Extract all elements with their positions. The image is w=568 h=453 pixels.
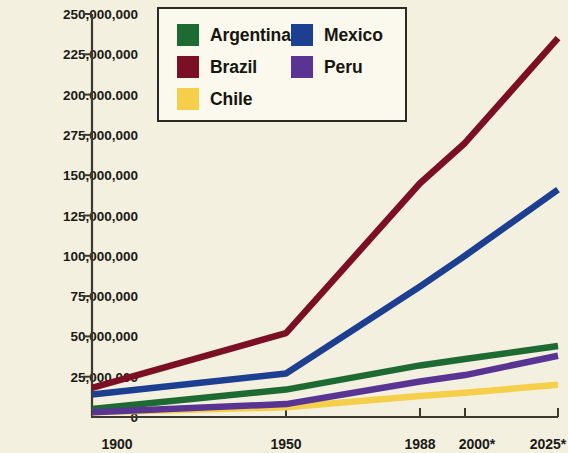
- legend-swatch-chile: [177, 88, 199, 110]
- legend: ArgentinaMexicoBrazilPeruChile: [157, 7, 407, 122]
- population-growth-line-chart: 250,000,000225,000,000200.000.000275,000…: [0, 0, 568, 453]
- x-axis-tick-label: 1900: [101, 436, 132, 452]
- legend-swatch-brazil: [177, 56, 199, 78]
- legend-entry-argentina: Argentina: [177, 24, 291, 46]
- legend-swatch-mexico: [291, 24, 313, 46]
- legend-grid: ArgentinaMexicoBrazilPeruChile: [159, 9, 405, 120]
- legend-row: Chile: [177, 83, 405, 115]
- x-axis-tick-label: 2000*: [459, 436, 496, 452]
- x-axis-tick-labels: 1900195019882000*2025*: [101, 436, 566, 452]
- legend-swatch-argentina: [177, 24, 199, 46]
- x-axis-tick-label: 1950: [270, 436, 301, 452]
- y-axis-tick-label: 225,000,000: [63, 47, 138, 62]
- y-axis-tick-labels: 250,000,000225,000,000200.000.000275,000…: [63, 7, 138, 425]
- legend-row: BrazilPeru: [177, 51, 405, 83]
- y-axis-tick-label: 275,000,000: [63, 128, 138, 143]
- legend-label-chile: Chile: [210, 89, 252, 110]
- y-axis-tick-label: 250,000,000: [63, 7, 138, 22]
- x-axis-tick-marks: [286, 408, 558, 417]
- y-axis-tick-label: 100,000,000: [63, 249, 138, 264]
- legend-entry-chile: Chile: [177, 88, 299, 110]
- y-axis-tick-label: 50,000,000: [70, 329, 138, 344]
- x-axis-tick-label: 1988: [404, 436, 435, 452]
- legend-label-argentina: Argentina: [210, 25, 291, 46]
- legend-label-mexico: Mexico: [324, 25, 383, 46]
- legend-swatch-peru: [291, 56, 313, 78]
- legend-entry-peru: Peru: [291, 56, 405, 78]
- legend-entry-brazil: Brazil: [177, 56, 291, 78]
- y-axis-tick-label: 200.000.000: [63, 88, 138, 103]
- legend-entry-mexico: Mexico: [291, 24, 405, 46]
- y-axis-tick-label: 150,000,000: [63, 168, 138, 183]
- y-axis-tick-label: 125,000,000: [63, 209, 138, 224]
- legend-row: ArgentinaMexico: [177, 19, 405, 51]
- y-axis-tick-marks: [83, 14, 92, 377]
- x-axis-tick-label: 2025*: [530, 436, 567, 452]
- legend-label-peru: Peru: [324, 57, 363, 78]
- legend-label-brazil: Brazil: [210, 57, 257, 78]
- y-axis-tick-label: 75,000,000: [70, 289, 138, 304]
